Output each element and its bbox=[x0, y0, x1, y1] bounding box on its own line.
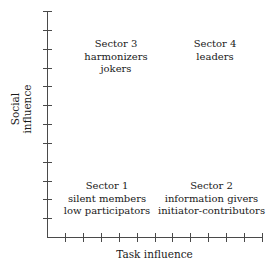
sector-4-label: Sector 4 leaders bbox=[160, 38, 270, 63]
x-axis-title: Task influence bbox=[47, 248, 262, 260]
y-axis-title-line-1: Social bbox=[9, 93, 21, 125]
y-axis-tick bbox=[43, 11, 52, 12]
sector-2-label: Sector 2 information givers initiator-co… bbox=[152, 180, 271, 218]
sector-1-line-1: Sector 1 bbox=[46, 180, 168, 193]
y-axis-title: Socialinfluence bbox=[9, 64, 33, 154]
x-axis-tick bbox=[101, 233, 102, 242]
x-axis-tick bbox=[262, 233, 263, 242]
sector-3-label: Sector 3 harmonizers jokers bbox=[58, 38, 174, 76]
x-axis-tick bbox=[226, 233, 227, 242]
y-axis-tick bbox=[43, 143, 52, 144]
sector-2-line-2: information givers bbox=[152, 193, 271, 206]
sector-1-line-2: silent members bbox=[46, 193, 168, 206]
x-axis-tick bbox=[244, 233, 245, 242]
y-axis-tick bbox=[43, 124, 52, 125]
x-axis-tick bbox=[208, 233, 209, 242]
y-axis-tick bbox=[43, 218, 52, 219]
x-axis-tick bbox=[83, 233, 84, 242]
x-axis-tick bbox=[155, 233, 156, 242]
sector-2-line-3: initiator-contributors bbox=[152, 205, 271, 218]
sector-3-line-2: harmonizers bbox=[58, 51, 174, 64]
y-axis-tick bbox=[43, 105, 52, 106]
sector-3-line-3: jokers bbox=[58, 63, 174, 76]
y-axis-tick bbox=[43, 86, 52, 87]
x-axis-tick bbox=[119, 233, 120, 242]
y-axis-tick bbox=[43, 30, 52, 31]
x-axis-tick bbox=[137, 233, 138, 242]
sector-3-line-1: Sector 3 bbox=[58, 38, 174, 51]
y-axis-title-line-2: influence bbox=[21, 85, 33, 134]
y-axis-tick bbox=[43, 68, 52, 69]
sector-4-line-1: Sector 4 bbox=[160, 38, 270, 51]
y-axis-tick bbox=[43, 162, 52, 163]
y-axis-tick bbox=[43, 49, 52, 50]
x-axis-tick bbox=[190, 233, 191, 242]
sector-1-label: Sector 1 silent members low participator… bbox=[46, 180, 168, 218]
sector-2-line-1: Sector 2 bbox=[152, 180, 271, 193]
sector-4-line-2: leaders bbox=[160, 51, 270, 64]
sector-1-line-3: low participators bbox=[46, 205, 168, 218]
x-axis-tick bbox=[172, 233, 173, 242]
x-axis-tick bbox=[65, 233, 66, 242]
influence-quadrant-chart: Socialinfluence Task influence Sector 3 … bbox=[0, 0, 271, 269]
